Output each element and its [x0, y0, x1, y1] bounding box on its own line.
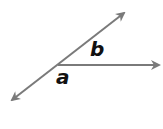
angle-label-a: a [56, 65, 70, 89]
angle-diagram: b a [0, 0, 163, 129]
angle-label-b: b [90, 37, 104, 61]
diagram-svg: b a [0, 0, 163, 129]
